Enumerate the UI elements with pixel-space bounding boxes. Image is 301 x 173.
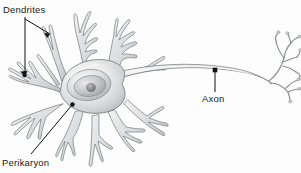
axon-highlight [130,66,266,82]
nucleolus [86,83,95,91]
dendrites-arrow-lower-dot [23,73,27,77]
bouton [299,49,301,52]
dendrite-left-lower [11,104,63,139]
terminal-twig-4 [297,51,300,57]
axon-terminals [269,31,301,103]
bouton [277,31,280,34]
terminal-branch-e [288,89,299,92]
terminal-trunk-2 [270,83,288,92]
terminal-branch-b [276,41,284,58]
label-axon: Axon [202,94,224,104]
terminal-branch-f [286,80,298,88]
dendrite-bottom-2 [89,115,113,166]
terminal-branch-c [283,57,297,62]
terminal-trunk [269,58,284,81]
terminal-twig-2 [288,34,291,43]
axon [118,64,272,84]
neuron-illustration [0,0,301,173]
terminal-twig-3 [276,33,278,41]
terminal-twig-6 [288,92,290,101]
bouton [298,87,301,90]
label-perikaryon: Perikaryon [2,158,49,168]
perikaryon-dot [70,102,74,106]
bouton [289,100,292,103]
dendrite-bottom-1 [56,110,83,161]
perikaryon [60,60,125,114]
dendrites-arrow-upper-line [25,19,50,34]
neuron-diagram-canvas: Dendrites Perikaryon Axon [0,0,301,173]
label-dendrites: Dendrites [3,5,45,15]
terminal-branch-d [283,66,296,72]
bouton [286,32,289,35]
axon-dot [213,68,218,73]
terminal-branch-a [284,43,291,58]
leader-axon [213,68,218,92]
bouton [298,35,301,38]
bouton [297,78,300,81]
terminal-twig-1 [291,37,299,43]
